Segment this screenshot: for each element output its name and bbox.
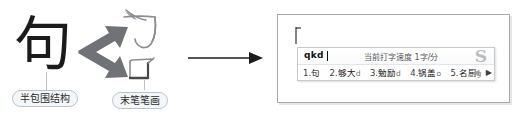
source-character: 句 <box>12 14 74 76</box>
candidate-word: 句 <box>311 68 320 78</box>
ime-candidate-item[interactable]: 1.句 <box>303 65 320 81</box>
text-caret-icon <box>294 27 302 45</box>
next-page-icon[interactable]: ▶ <box>486 65 492 81</box>
kou-last-stroke-glyph <box>124 56 160 84</box>
prev-page-icon[interactable]: ◀ <box>473 65 479 81</box>
screenshot-root: 句 半包围结构 末笔笔画 <box>0 0 521 116</box>
ime-input-caret <box>327 51 328 61</box>
ime-status-text: 当前打字速度 1字/分 <box>364 51 438 62</box>
leader-line-structure <box>46 72 47 90</box>
ime-composition-bar: qkd 当前打字速度 1字/分 S <box>298 48 494 65</box>
candidate-tail: d <box>356 69 361 78</box>
arrow-down-right-icon <box>76 50 130 80</box>
candidate-tail: o <box>436 69 441 78</box>
candidate-index: 5. <box>450 68 458 78</box>
ime-input-text[interactable]: qkd <box>304 50 324 60</box>
ime-candidate-item[interactable]: 2.够大d <box>330 65 361 81</box>
ime-pager: ◀ ▶ <box>471 65 492 81</box>
document-window[interactable]: qkd 当前打字速度 1字/分 S 1.句 2.够大d 3.勉励d 4.锅盖o <box>277 14 510 103</box>
leader-line-last-stroke <box>144 80 145 90</box>
label-structure: 半包围结构 <box>12 90 78 107</box>
candidate-tail: d <box>396 69 401 78</box>
bao-radical-glyph <box>118 4 166 52</box>
candidate-word: 勉励 <box>378 68 396 78</box>
candidate-index: 3. <box>370 68 378 78</box>
candidate-index: 2. <box>330 68 338 78</box>
ime-candidate-window[interactable]: qkd 当前打字速度 1字/分 S 1.句 2.够大d 3.勉励d 4.锅盖o <box>297 47 495 81</box>
ime-candidate-list: 1.句 2.够大d 3.勉励d 4.锅盖o 5.名厨g ◀ ▶ <box>298 65 494 81</box>
label-last-stroke: 末笔笔画 <box>112 92 168 109</box>
candidate-word: 锅盖 <box>418 68 436 78</box>
arrow-right-icon <box>188 50 264 66</box>
ime-candidate-item[interactable]: 4.锅盖o <box>410 65 441 81</box>
candidate-index: 1. <box>303 68 311 78</box>
candidate-word: 够大 <box>338 68 356 78</box>
ime-candidate-item[interactable]: 3.勉励d <box>370 65 401 81</box>
